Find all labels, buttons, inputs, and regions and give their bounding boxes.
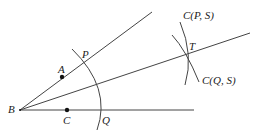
label-p: P — [82, 49, 89, 60]
diagram-canvas — [0, 0, 260, 135]
label-circle-ps: C(P, S) — [183, 10, 214, 21]
point-a — [60, 75, 64, 79]
label-a: A — [58, 64, 65, 75]
label-circle-qs: C(Q, S) — [202, 75, 236, 86]
angle-bisector-diagram: B A C P Q T C(P, S) C(Q, S) — [0, 0, 260, 135]
label-t: T — [189, 41, 195, 52]
label-b: B — [8, 104, 15, 115]
ray-ba — [20, 12, 152, 110]
label-c: C — [63, 115, 70, 126]
label-q: Q — [102, 115, 110, 126]
bisector-bt — [20, 33, 250, 110]
point-b — [19, 109, 21, 111]
point-c — [65, 108, 69, 112]
